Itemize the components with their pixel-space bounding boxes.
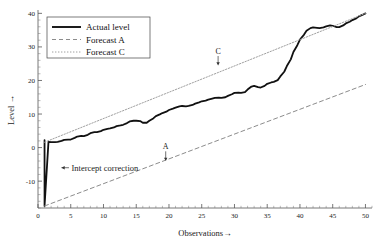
y-tick-label: -10 <box>26 178 36 186</box>
x-tick-label: 5 <box>69 212 73 220</box>
x-tick-label: 10 <box>100 212 108 220</box>
chart-legend: Actual levelForecast AForecast C <box>47 17 150 58</box>
x-tick-label: 40 <box>296 212 304 220</box>
legend-label-forecast-a: Forecast A <box>86 35 125 45</box>
annotation-label-c: C <box>215 47 220 56</box>
x-tick-label: 35 <box>264 212 272 220</box>
x-axis-title: Observations→ <box>178 228 231 238</box>
x-tick-label: 30 <box>231 212 239 220</box>
x-tick-label: 25 <box>198 212 206 220</box>
y-axis-title: Level → <box>6 95 16 125</box>
y-tick-label: 10 <box>28 111 36 119</box>
y-tick-label: 40 <box>28 10 36 18</box>
forecast-line-chart: -10010203040 05101520253035404550 Interc… <box>0 0 381 242</box>
x-tick-label: 0 <box>36 212 40 220</box>
x-tick-label: 20 <box>165 212 173 220</box>
chart-screenshot: -10010203040 05101520253035404550 Interc… <box>0 0 381 242</box>
legend-label-actual-level: Actual level <box>86 22 130 32</box>
x-tick-label: 50 <box>362 212 370 220</box>
y-tick-label: 20 <box>28 77 36 85</box>
y-tick-label: 0 <box>32 144 36 152</box>
x-tick-label: 15 <box>133 212 141 220</box>
x-tick-label: 45 <box>329 212 337 220</box>
annotation-label-a: A <box>163 142 169 151</box>
y-tick-label: 30 <box>28 43 36 51</box>
legend-label-forecast-c: Forecast C <box>86 47 125 57</box>
annotation-label-intercept-correction: Intercept correction <box>71 163 139 173</box>
